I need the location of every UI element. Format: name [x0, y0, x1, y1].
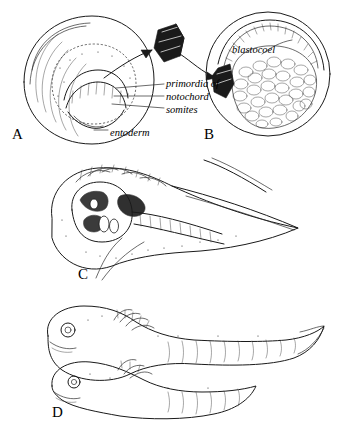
- panel-c-secondary-embryo-section: C: [36, 156, 316, 286]
- panel-letter-b: B: [204, 126, 214, 143]
- embryology-figure: A: [0, 0, 345, 441]
- label-notochord: notochord: [166, 91, 209, 102]
- panel-d-conjoined-larvae: D: [18, 296, 330, 432]
- leader-line-blastocoel: [258, 32, 308, 62]
- panel-letter-c: C: [78, 266, 88, 283]
- leader-lines: [80, 74, 172, 144]
- leader-line-b: [258, 32, 308, 62]
- panel-letter-a: A: [12, 126, 23, 143]
- label-primordia-of: primordia of: [166, 78, 219, 89]
- panel-d-drawing: [18, 296, 330, 432]
- leader-lines-panel-a: [80, 74, 172, 144]
- panel-letter-d: D: [52, 404, 63, 421]
